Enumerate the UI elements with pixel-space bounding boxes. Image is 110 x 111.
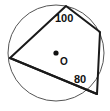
- center-point-dot: [53, 50, 58, 55]
- geometry-figure: 100 80 O: [0, 0, 110, 111]
- angle-label-100: 100: [55, 13, 73, 24]
- angle-label-80: 80: [74, 74, 86, 85]
- center-label-O: O: [60, 57, 68, 67]
